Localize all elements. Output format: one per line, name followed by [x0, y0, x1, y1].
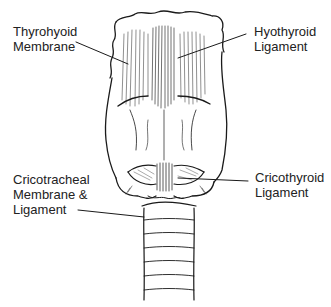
label-cricotracheal: Cricotracheal Membrane & Ligament — [13, 172, 90, 217]
cricoid-cartilage — [116, 178, 156, 198]
trachea — [144, 208, 145, 300]
label-cricothyroid-ligament: Cricothyroid Ligament — [255, 170, 324, 200]
leader-cricothyroid — [178, 178, 248, 181]
leader-thyrohyoid — [76, 42, 128, 64]
label-thyrohyoid-membrane: Thyrohyoid Membrane — [13, 24, 77, 54]
thyroid-cartilage — [105, 78, 116, 178]
label-hyothyroid-ligament: Hyothyroid Ligament — [254, 24, 316, 54]
